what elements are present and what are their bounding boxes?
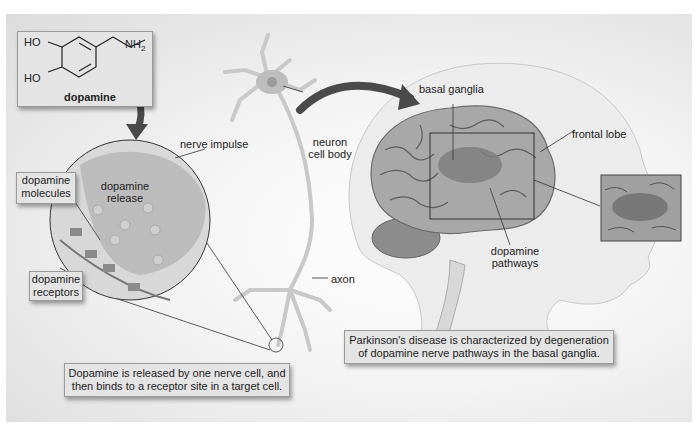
caption-parkinsons: Parkinson's disease is characterized by …	[344, 330, 614, 364]
hydroxyl-group-1: HO	[24, 36, 41, 48]
basal-ganglia-region	[438, 147, 502, 183]
molecule-name: dopamine	[64, 91, 116, 103]
amine-group: NH2	[125, 38, 145, 55]
label-dopamine-molecules: dopamine molecules	[16, 172, 76, 204]
label-nerve-impulse: nerve impulse	[180, 138, 248, 150]
label-frontal-lobe: frontal lobe	[572, 128, 626, 140]
label-dopamine-pathways: dopamine pathways	[490, 245, 540, 269]
label-neuron-cell-body: neuron cell body	[308, 136, 352, 160]
hydroxyl-group-2: HO	[24, 72, 41, 84]
label-basal-ganglia: basal ganglia	[419, 83, 484, 95]
label-dopamine-release: dopamine release	[100, 180, 150, 204]
caption-release: Dopamine is released by one nerve cell, …	[64, 363, 290, 397]
label-axon: axon	[331, 273, 355, 285]
label-dopamine-receptors: dopamine receptors	[29, 271, 83, 301]
